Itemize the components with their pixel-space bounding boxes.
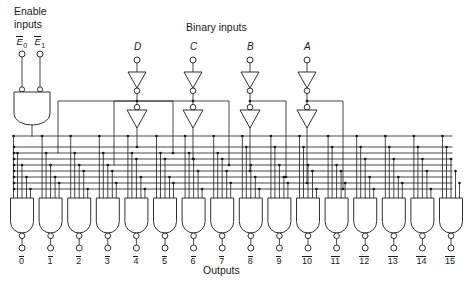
nand-gate	[297, 198, 320, 233]
junction-dot	[421, 158, 424, 161]
junction-dot	[458, 182, 461, 185]
output-bubble	[19, 233, 25, 239]
junction-dot	[201, 188, 204, 191]
junction-dot	[372, 188, 375, 191]
enable-title-line1: Enable	[14, 6, 47, 17]
junction-dot	[144, 188, 147, 191]
junction-dot	[417, 146, 420, 149]
binary-input-label-A: A	[304, 42, 311, 52]
junction-dot	[340, 170, 343, 173]
binary-input-label-B: B	[247, 42, 254, 52]
output-bubble	[448, 233, 454, 239]
output-label-1: 1	[48, 256, 53, 266]
junction-dot	[278, 164, 281, 167]
output-label-11: 11	[331, 256, 340, 266]
junction-dot	[283, 176, 286, 179]
junction-dot	[13, 176, 16, 179]
junction-dot	[359, 146, 362, 149]
output-terminal	[133, 245, 139, 251]
output-label-2: 2	[76, 256, 81, 266]
junction-dot	[192, 100, 195, 103]
junction-dot	[58, 182, 61, 185]
output-bubble	[105, 233, 111, 239]
output-bubble	[305, 233, 311, 239]
junction-dot	[54, 176, 57, 179]
junction-dot	[216, 152, 219, 155]
enable-input-label-E0: E0	[16, 36, 27, 49]
inverter-triangle	[298, 72, 316, 88]
junction-dot	[159, 152, 162, 155]
junction-dot	[12, 135, 15, 138]
nand-gate	[125, 198, 148, 233]
junction-dot	[45, 152, 48, 155]
junction-dot	[344, 182, 347, 185]
junction-dot	[355, 135, 358, 138]
junction-dot	[155, 135, 158, 138]
output-terminal	[305, 245, 311, 251]
junction-dot	[164, 158, 167, 161]
output-label-7: 7	[219, 256, 224, 266]
junction-dot	[306, 182, 309, 185]
output-label-5: 5	[162, 256, 167, 266]
binary-input-terminal-B	[247, 57, 253, 63]
binary-input-terminal-A	[304, 57, 310, 63]
junction-dot	[102, 152, 105, 155]
junction-dot	[13, 146, 16, 149]
junction-dot	[13, 152, 16, 155]
junction-dot	[13, 170, 16, 173]
junction-dot	[254, 176, 257, 179]
inverter-triangle	[127, 110, 147, 128]
complement-feeder	[114, 101, 193, 165]
complement-branch	[137, 101, 173, 153]
junction-dot	[307, 164, 310, 167]
input-bubble	[37, 87, 42, 92]
junction-dot	[115, 182, 118, 185]
output-terminal	[19, 245, 25, 251]
junction-dot	[98, 135, 101, 138]
junction-dot	[368, 176, 371, 179]
enable-input-terminal	[19, 51, 25, 57]
junction-dot	[331, 146, 334, 149]
junction-dot	[249, 170, 252, 173]
output-terminal	[162, 245, 168, 251]
enable-title-line2: inputs	[14, 19, 42, 30]
junction-dot	[212, 135, 215, 138]
junction-dot	[106, 164, 109, 167]
output-terminal	[76, 245, 82, 251]
junction-dot	[13, 158, 16, 161]
junction-dot	[13, 188, 16, 191]
inverter-bubble	[247, 88, 253, 94]
complement-feeder	[58, 101, 137, 153]
junction-dot	[131, 152, 134, 155]
output-bubble	[76, 233, 82, 239]
junction-dot	[25, 176, 28, 179]
enable-input-terminal	[37, 51, 43, 57]
junction-dot	[258, 188, 261, 191]
junction-dot	[249, 100, 252, 103]
and-gate	[14, 92, 50, 125]
junction-dot	[21, 164, 24, 167]
nand-gate	[211, 198, 234, 233]
junction-dot	[311, 170, 314, 173]
nand-gate	[354, 198, 377, 233]
junction-dot	[441, 135, 444, 138]
junction-dot	[29, 188, 32, 191]
junction-dot	[364, 158, 367, 161]
output-bubble	[219, 233, 225, 239]
junction-dot	[249, 164, 252, 167]
junction-dot	[135, 158, 138, 161]
junction-dot	[229, 182, 232, 185]
junction-dot	[270, 135, 273, 138]
decoder-logic-diagram	[0, 0, 467, 291]
junction-dot	[168, 176, 171, 179]
binary-input-terminal-C	[190, 57, 196, 63]
output-label-13: 13	[388, 256, 398, 266]
junction-dot	[384, 135, 387, 138]
junction-dot	[140, 176, 143, 179]
inverter-bubble	[304, 104, 310, 110]
output-bubble	[391, 233, 397, 239]
outputs-title: Outputs	[203, 265, 240, 276]
junction-dot	[16, 152, 19, 155]
junction-dot	[172, 152, 175, 155]
nand-gate	[68, 198, 91, 233]
